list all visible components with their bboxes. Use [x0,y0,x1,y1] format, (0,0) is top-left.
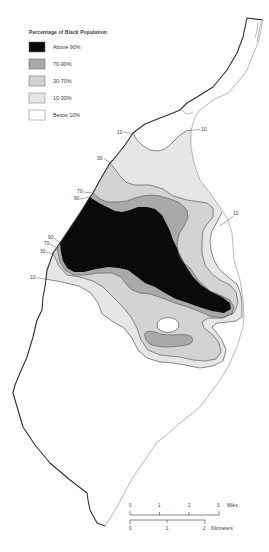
scale-bar: 0 1 2 3 Miles 0 1 2 Kilometers [129,503,238,531]
contour-label-10-top: 10 [117,130,123,135]
legend-swatch-below-10 [29,110,45,120]
legend-label-10-30: 10-30% [53,95,72,101]
scale-km-tick-1: 1 [166,526,169,531]
scale-km-line [130,520,205,524]
legend-swatch-10-30 [29,93,45,103]
scale-miles-unit: Miles [227,503,238,508]
scale-miles-tick-1: 1 [158,503,161,508]
legend-label-70-90: 70-90% [53,61,72,67]
contour-label-10-right: 10 [233,211,239,216]
leader-line [46,252,53,254]
contour-label-30-lower: 30 [40,249,46,254]
contour-label-90-upper: 90 [74,196,80,201]
scale-km-tick-2: 2 [203,526,206,531]
city-map: 10 10 30 70 90 90 70 30 10 10 [13,18,263,526]
leader-line [54,238,60,243]
legend-swatch-above-90 [29,42,45,52]
leader-line [104,159,111,163]
scale-miles-tick-0: 0 [129,503,132,508]
contour-label-70-upper: 70 [77,189,83,194]
legend-swatch-30-70 [29,76,45,86]
contour-label-90-lower: 90 [48,235,54,240]
legend: Percentage of Black Population Above 90%… [29,29,107,120]
leader-line [50,244,57,248]
leader-line [36,278,45,280]
contour-label-10-lower-left: 10 [30,275,36,280]
scale-miles-tick-2: 2 [188,503,191,508]
scale-miles-tick-3: 3 [217,503,220,508]
legend-title: Percentage of Black Population [29,29,107,35]
scale-miles-line [130,511,219,515]
scale-km-tick-0: 0 [129,526,132,531]
contour-label-70-lower: 70 [44,241,50,246]
enclave-below-10 [157,318,179,333]
legend-label-30-70: 30-70% [53,78,72,84]
scale-km-unit: Kilometers [211,526,233,531]
contour-label-10-top-right: 10 [201,127,207,132]
scale-bar-miles: 0 1 2 3 Miles [129,503,238,515]
leader-line [83,192,93,193]
scale-bar-kilometers: 0 1 2 Kilometers [129,520,233,531]
population-map: Percentage of Black Population Above 90%… [0,0,269,552]
contour-label-30-top: 30 [97,156,103,161]
legend-label-above-90: Above 90% [53,44,81,50]
leader-line [190,130,200,131]
legend-label-below-10: Below 10% [53,112,80,118]
legend-swatch-70-90 [29,59,45,69]
leader-line [124,132,133,134]
